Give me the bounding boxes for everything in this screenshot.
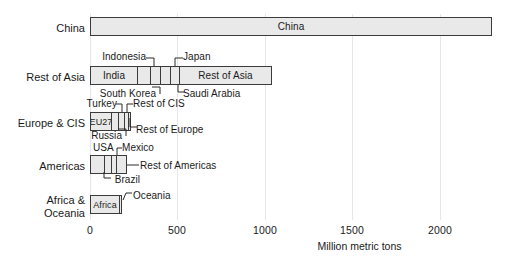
segment-saudi-arabia xyxy=(171,67,180,84)
callout-mexico: Mexico xyxy=(122,142,154,153)
xtick-label-2000: 2000 xyxy=(428,224,452,236)
callout-rest-of-americas: Rest of Americas xyxy=(140,160,216,171)
gridline-500 xyxy=(177,14,178,220)
bar-rest-of-asia: India Rest of Asia xyxy=(90,66,272,85)
xtick-label-0: 0 xyxy=(87,224,93,236)
row-label-americas: Americas xyxy=(39,160,85,172)
callout-saudi-arabia: Saudi Arabia xyxy=(183,88,240,99)
segment-rest-of-asia: Rest of Asia xyxy=(180,67,271,84)
segment-label-india: India xyxy=(103,70,125,81)
callout-indonesia: Indonesia xyxy=(102,51,146,62)
segment-japan xyxy=(161,67,171,84)
segment-label-africa: Africa xyxy=(93,200,117,210)
callout-oceania: Oceania xyxy=(133,190,171,201)
segment-africa: Africa xyxy=(91,196,120,213)
segment-brazil xyxy=(105,156,112,173)
bar-americas xyxy=(90,155,127,174)
segment-oceania xyxy=(120,196,121,213)
xtick-label-1500: 1500 xyxy=(340,224,364,236)
row-label-europe-cis: Europe & CIS xyxy=(18,117,85,129)
segment-label-eu27: EU27 xyxy=(91,117,112,127)
callout-rest-of-europe: Rest of Europe xyxy=(136,124,203,135)
row-label-rest-of-asia: Rest of Asia xyxy=(26,71,85,83)
row-label-china: China xyxy=(56,22,85,34)
segment-label-china: China xyxy=(278,21,305,32)
xtick-label-1000: 1000 xyxy=(253,224,277,236)
bar-china: China xyxy=(90,17,492,36)
x-axis-title: Million metric tons xyxy=(0,240,519,252)
bar-africa-oceania: Africa xyxy=(90,195,122,214)
callout-turkey: Turkey xyxy=(87,98,118,109)
leader-line-rest-of-americas xyxy=(127,160,141,170)
callout-rest-of-cis: Rest of CIS xyxy=(133,98,185,109)
segment-turkey xyxy=(112,113,119,130)
row-label-africa-oceania: Africa & Oceania xyxy=(44,194,85,220)
gridline-2000 xyxy=(440,14,441,220)
gridline-1500 xyxy=(352,14,353,220)
segment-south-korea xyxy=(151,67,161,84)
x-axis-title-text: Million metric tons xyxy=(317,240,401,252)
callout-russia: Russia xyxy=(91,130,122,141)
bar-europe-cis: EU27 xyxy=(90,112,131,131)
segment-usa xyxy=(91,156,105,173)
stacked-bar-chart: 0 500 1000 1500 2000 Million metric tons… xyxy=(0,0,519,266)
callout-brazil: Brazil xyxy=(115,174,140,185)
segment-label-rest-of-asia: Rest of Asia xyxy=(198,70,253,81)
plot-area: 0 500 1000 1500 2000 Million metric tons… xyxy=(0,0,519,266)
xtick-label-500: 500 xyxy=(168,224,186,236)
segment-india: India xyxy=(91,67,138,84)
callout-japan: Japan xyxy=(183,51,211,62)
segment-rest-of-europe xyxy=(129,113,130,130)
callout-usa: USA xyxy=(93,142,114,153)
segment-indonesia xyxy=(138,67,151,84)
gridline-1000 xyxy=(265,14,266,220)
segment-rest-of-americas xyxy=(117,156,126,173)
segment-china: China xyxy=(91,18,491,35)
segment-eu27: EU27 xyxy=(91,113,112,130)
